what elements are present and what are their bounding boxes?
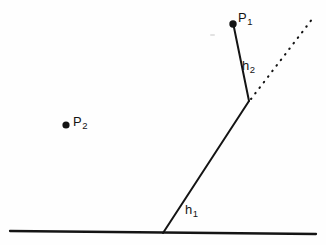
figure-canvas: P1 P2 h2 h1 — [0, 0, 326, 245]
point-marker-p2 — [62, 121, 69, 128]
label-h2-base: h — [242, 58, 249, 73]
label-p2: P2 — [73, 115, 87, 128]
label-p1-base: P — [238, 10, 247, 25]
label-h1: h1 — [185, 203, 198, 216]
line-drawing — [0, 0, 326, 245]
label-p2-subscript: 2 — [82, 120, 87, 131]
label-h1-base: h — [185, 202, 192, 217]
label-p2-base: P — [73, 114, 82, 129]
scan-artifact-speck — [210, 34, 215, 36]
label-p1: P1 — [238, 11, 252, 24]
point-marker-p1 — [229, 20, 236, 27]
segment-h1-line — [163, 101, 249, 233]
label-p1-subscript: 1 — [247, 16, 252, 27]
label-h2-subscript: 2 — [250, 64, 255, 75]
dotted-extension-line — [251, 18, 313, 99]
label-h2: h2 — [242, 59, 255, 72]
label-h1-subscript: 1 — [193, 208, 198, 219]
